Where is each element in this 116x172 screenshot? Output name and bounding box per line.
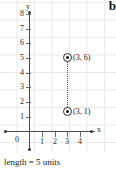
data-point-3-6-label: (3, 6) [73,54,90,62]
data-point-3-1[interactable] [63,107,72,116]
y-axis-line [29,11,30,151]
y-tick-label-7: 7 [14,25,24,33]
x-axis-left-endpoint-marker [4,130,7,133]
y-tick-2 [26,102,31,103]
y-tick-label-1: 1 [14,113,24,121]
x-tick-label-1: 1 [37,138,47,146]
data-point-3-1-label: (3, 1) [73,108,90,116]
data-point-3-6[interactable] [63,53,72,62]
y-axis-label: y [26,3,30,11]
y-tick-3 [26,87,31,88]
x-axis-right-endpoint-marker [90,130,93,133]
y-tick-label-2: 2 [14,98,24,106]
data-point-center-dot [66,56,69,59]
x-tick-label-4: 4 [75,138,85,146]
x-axis-line [4,131,95,132]
y-tick-label-6: 6 [14,39,24,47]
origin-label: 0 [15,136,19,144]
corner-part-label: b [109,0,116,12]
x-tick-label-3: 3 [62,138,72,146]
y-tick-label-8: 8 [14,10,24,18]
y-tick-4 [26,73,31,74]
y-tick-label-5: 5 [14,54,24,62]
y-tick-label-3: 3 [14,83,24,91]
x-tick-label-2: 2 [50,138,60,146]
y-tick-7 [26,29,31,30]
y-tick-6 [26,43,31,44]
y-tick-5 [26,58,31,59]
data-point-center-dot [66,110,69,113]
y-tick-label-4: 4 [14,69,24,77]
y-tick-8 [26,14,31,15]
y-tick-1 [26,117,31,118]
x-axis-label: x [97,126,101,134]
coordinate-plane: y x 1 2 3 4 5 6 7 8 1 2 3 4 0 (3, 6) (3,… [0,0,116,152]
figure-caption: length = 5 units [4,158,60,167]
y-axis-bottom-endpoint-marker [28,148,31,151]
point-connector-segment [67,57,68,111]
